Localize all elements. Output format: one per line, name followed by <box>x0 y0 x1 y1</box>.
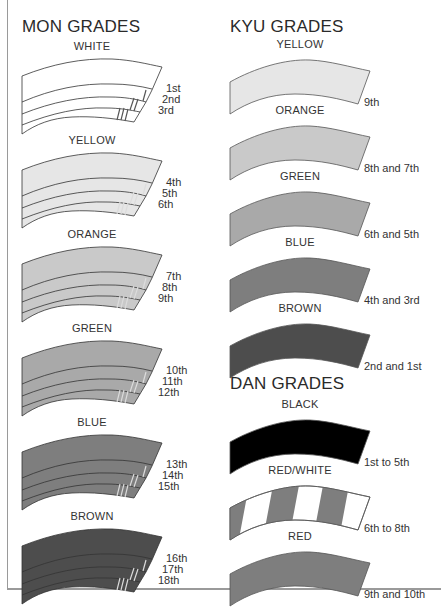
mon-grade-label: 12th <box>158 386 179 398</box>
dan-grade-label: 1st to 5th <box>364 456 409 468</box>
mon-belt-orange <box>22 244 164 322</box>
dan-grades-title: DAN GRADES <box>230 374 344 394</box>
mon-belt-label: GREEN <box>22 322 162 334</box>
dan-belt-label: BLACK <box>230 398 370 410</box>
dan-grade-label: 6th to 8th <box>364 522 410 534</box>
kyu-grades-title: KYU GRADES <box>230 17 343 37</box>
mon-belt-label: BLUE <box>22 416 162 428</box>
mon-belt-yellow <box>22 150 164 228</box>
dan-belt-label: RED/WHITE <box>230 464 370 476</box>
kyu-belt-label: YELLOW <box>230 38 370 50</box>
mon-grade-label: 3rd <box>158 104 174 116</box>
mon-belt-blue <box>22 432 164 510</box>
mon-grades-title: MON GRADES <box>22 17 140 37</box>
mon-belt-green <box>22 338 164 416</box>
dan-belt-red <box>230 546 372 608</box>
kyu-grade-label: 4th and 3rd <box>364 294 420 306</box>
kyu-grade-label: 8th and 7th <box>364 162 419 174</box>
kyu-belt-label: BLUE <box>230 236 370 248</box>
mon-grade-label: 6th <box>158 198 173 210</box>
kyu-belt-label: BROWN <box>230 302 370 314</box>
mon-grade-label: 15th <box>158 480 179 492</box>
kyu-belt-label: GREEN <box>230 170 370 182</box>
mon-belt-brown <box>22 526 164 604</box>
kyu-grade-label: 2nd and 1st <box>364 360 422 372</box>
dan-grade-label: 9th and 10th <box>364 588 425 600</box>
mon-belt-white <box>22 56 164 134</box>
mon-belt-label: BROWN <box>22 510 162 522</box>
dan-belt-label: RED <box>230 530 370 542</box>
kyu-belt-label: ORANGE <box>230 104 370 116</box>
mon-belt-label: ORANGE <box>22 228 162 240</box>
mon-grade-label: 9th <box>158 292 173 304</box>
kyu-grade-label: 6th and 5th <box>364 228 419 240</box>
kyu-belt-brown <box>230 318 372 380</box>
mon-grade-label: 18th <box>158 574 179 586</box>
mon-belt-label: WHITE <box>22 40 162 52</box>
mon-belt-label: YELLOW <box>22 134 162 146</box>
